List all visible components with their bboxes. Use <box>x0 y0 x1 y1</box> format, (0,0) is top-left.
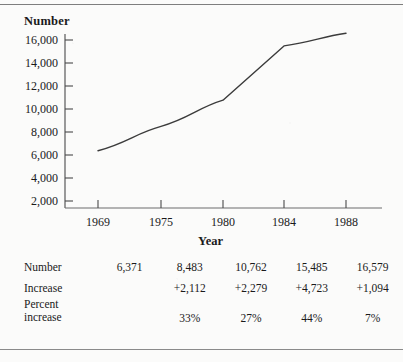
cell-percent-1988: 7% <box>342 298 403 324</box>
x-tick-marks <box>98 200 346 208</box>
cell-percent-1984: 44% <box>281 298 342 324</box>
row-label-percent-line1: Percent <box>24 298 100 311</box>
row-label-increase: Increase <box>0 277 100 298</box>
cell-increase-1980: +2,279 <box>221 277 282 298</box>
x-tick-label-1975: 1975 <box>131 216 191 228</box>
data-table: Number 6,371 8,483 10,762 15,485 16,579 … <box>0 256 403 324</box>
cell-percent-1980: 27% <box>221 298 282 324</box>
table-row-percent-increase: Percent increase 33% 27% 44% 7% <box>0 298 403 324</box>
cell-increase-1984: +4,723 <box>281 277 342 298</box>
cell-number-1980: 10,762 <box>221 256 282 277</box>
chart-svg <box>0 0 403 250</box>
cell-increase-1969 <box>100 277 159 298</box>
cell-increase-1988: +1,094 <box>342 277 403 298</box>
cell-number-1969: 6,371 <box>100 256 159 277</box>
bottom-rule <box>0 349 403 350</box>
table-row-increase: Increase +2,112 +2,279 +4,723 +1,094 <box>0 277 403 298</box>
y-tick-marks <box>65 40 73 201</box>
cell-number-1984: 15,485 <box>281 256 342 277</box>
x-tick-label-1980: 1980 <box>193 216 253 228</box>
row-label-number: Number <box>0 256 100 277</box>
cell-increase-1975: +2,112 <box>159 277 221 298</box>
x-axis-title: Year <box>0 234 403 249</box>
cell-number-1988: 16,579 <box>342 256 403 277</box>
cell-percent-1969 <box>100 298 159 324</box>
x-tick-label-1969: 1969 <box>68 216 128 228</box>
cell-percent-1975: 33% <box>159 298 221 324</box>
x-tick-label-1988: 1988 <box>316 216 376 228</box>
figure-container: Number 16,000 14,000 12,000 10,000 8,000… <box>0 0 403 362</box>
row-label-percent-increase: Percent increase <box>0 298 100 324</box>
table-row-number: Number 6,371 8,483 10,762 15,485 16,579 <box>0 256 403 277</box>
line-chart: Number 16,000 14,000 12,000 10,000 8,000… <box>0 0 403 250</box>
cell-number-1975: 8,483 <box>159 256 221 277</box>
row-label-percent-line2: increase <box>24 311 100 324</box>
data-line-series <box>98 33 346 150</box>
x-tick-label-1984: 1984 <box>254 216 314 228</box>
